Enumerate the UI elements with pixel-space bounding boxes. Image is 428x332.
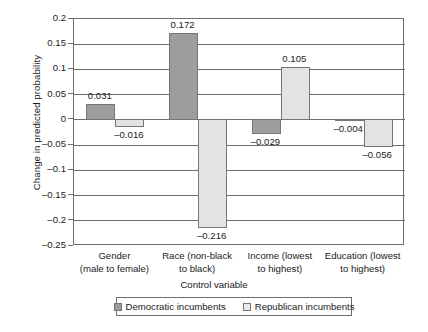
bar-value-label: –0.216 — [185, 230, 239, 241]
bar-democratic — [86, 104, 115, 120]
x-axis-title: Control variable — [0, 279, 428, 290]
y-axis-tick-label: –0.2 — [47, 215, 66, 225]
legend-entry-democratic: Democratic incumbents — [114, 301, 226, 312]
bar-value-label: 0.031 — [73, 90, 127, 101]
y-axis-tick-label: 0.05 — [47, 89, 66, 99]
legend-swatch-republican-icon — [243, 303, 251, 311]
bar-democratic — [169, 33, 198, 120]
chart-legend: Democratic incumbents Republican incumbe… — [116, 297, 352, 316]
legend-label-democratic: Democratic incumbents — [126, 301, 226, 312]
y-axis-tick-label: –0.1 — [47, 164, 66, 174]
bar-value-label: –0.004 — [321, 123, 375, 134]
y-axis-title: Change in predicted probability — [31, 3, 42, 243]
y-axis-tick-label: –0.05 — [42, 139, 66, 149]
bar-republican — [198, 119, 227, 228]
bar-democratic — [252, 119, 281, 134]
gridline — [74, 44, 405, 45]
gridline — [74, 220, 405, 221]
x-axis-tick-label-line: Education (lowest — [313, 250, 413, 263]
y-axis-tick-label: 0.15 — [47, 38, 66, 48]
bar-value-label: –0.016 — [102, 129, 156, 140]
gridline — [74, 170, 405, 171]
gridline — [74, 69, 405, 70]
y-axis-tick-label: –0.15 — [42, 190, 66, 200]
bar-republican — [115, 119, 144, 127]
y-axis-tick-label: 0.1 — [53, 63, 66, 73]
bar-value-label: 0.172 — [156, 19, 210, 30]
bar-value-label: 0.105 — [267, 53, 321, 64]
y-axis-tick-label: 0 — [61, 114, 66, 124]
legend-entry-republican: Republican incumbents — [243, 301, 355, 312]
legend-label-republican: Republican incumbents — [255, 301, 355, 312]
bar-chart-figure: Change in predicted probability 0.20.150… — [0, 0, 428, 332]
bar-value-label: –0.029 — [238, 136, 292, 147]
x-axis-tick-label: Education (lowestto highest) — [313, 250, 413, 275]
y-axis-tick-label: 0.2 — [53, 13, 66, 23]
gridline — [74, 195, 405, 196]
legend-swatch-democratic-icon — [114, 303, 122, 311]
bar-republican — [281, 67, 310, 120]
bar-democratic — [335, 119, 364, 121]
y-axis-tick-label: –0.25 — [42, 240, 66, 250]
x-axis-tick-label-line: to highest) — [313, 263, 413, 276]
bar-value-label: –0.056 — [350, 149, 404, 160]
